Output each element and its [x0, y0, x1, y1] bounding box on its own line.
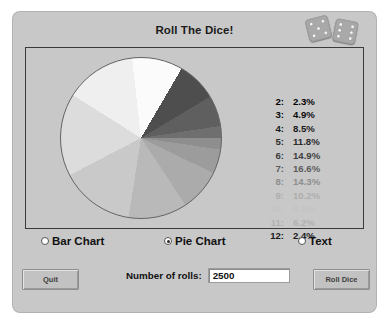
bottom-toolbar: Quit Number of rolls: Roll Dice — [13, 264, 376, 298]
quit-button[interactable]: Quit — [22, 269, 79, 290]
number-of-rolls-input[interactable] — [208, 268, 290, 283]
dice-illustration — [304, 13, 372, 45]
roll-dice-button[interactable]: Roll Dice — [313, 269, 370, 290]
legend-row-key: 6: — [264, 150, 284, 161]
pie-chart — [60, 57, 222, 219]
radio-text[interactable]: Text — [298, 235, 332, 247]
legend-row-key: 10: — [264, 203, 284, 214]
legend-row-key: 11: — [264, 217, 284, 228]
radio-text-dot[interactable] — [298, 237, 306, 245]
legend-row-value: 8.5% — [293, 123, 315, 134]
legend-row: 2:2.3% — [264, 96, 356, 109]
radio-bar-chart-dot[interactable] — [41, 237, 49, 245]
radio-pie-chart[interactable]: Pie Chart — [164, 235, 226, 247]
legend-row: 5:11.8% — [264, 136, 356, 149]
legend-row-value: 2.3% — [293, 96, 315, 107]
legend-row-value: 6.2% — [293, 217, 315, 228]
legend-row-value: 4.9% — [293, 109, 315, 120]
legend-row: 6:14.9% — [264, 150, 356, 163]
legend-row-value: 14.9% — [293, 150, 320, 161]
die-icon-left — [305, 15, 333, 43]
radio-text-label: Text — [309, 235, 332, 247]
legend-row-value: 8.0% — [293, 203, 315, 214]
legend-row: 9:10.2% — [264, 190, 356, 203]
radio-bar-chart-label: Bar Chart — [52, 235, 104, 247]
pie-chart-circle — [60, 57, 222, 219]
legend-row: 3:4.9% — [264, 109, 356, 122]
radio-bar-chart[interactable]: Bar Chart — [41, 235, 104, 247]
number-of-rolls-label: Number of rolls: — [126, 270, 202, 281]
legend-row-key: 2: — [264, 96, 284, 107]
view-mode-radio-group: Bar Chart Pie Chart Text — [13, 234, 376, 256]
application-window: Roll The Dice! 2:2.3%3:4.9%4:8.5%5:11.8%… — [13, 12, 376, 312]
number-of-rolls-group: Number of rolls: — [126, 268, 290, 283]
legend-row-key: 4: — [264, 123, 284, 134]
legend-row: 4:8.5% — [264, 123, 356, 136]
legend-row-value: 14.3% — [293, 176, 320, 187]
page-title: Roll The Dice! — [155, 24, 233, 36]
legend-row-key: 3: — [264, 109, 284, 120]
radio-pie-chart-dot[interactable] — [164, 237, 172, 245]
legend-row: 10:8.0% — [264, 203, 356, 216]
legend-row-value: 11.8% — [293, 136, 320, 147]
die-icon-right — [332, 18, 359, 45]
radio-pie-chart-label: Pie Chart — [175, 235, 226, 247]
legend-row: 11:6.2% — [264, 217, 356, 230]
pie-chart-legend: 2:2.3%3:4.9%4:8.5%5:11.8%6:14.9%7:16.6%8… — [264, 96, 356, 243]
legend-row-key: 5: — [264, 136, 284, 147]
chart-panel: 2:2.3%3:4.9%4:8.5%5:11.8%6:14.9%7:16.6%8… — [25, 47, 364, 229]
legend-row: 7:16.6% — [264, 163, 356, 176]
legend-row-key: 8: — [264, 176, 284, 187]
legend-row-value: 10.2% — [293, 190, 320, 201]
legend-row-key: 9: — [264, 190, 284, 201]
legend-row: 8:14.3% — [264, 176, 356, 189]
legend-row-value: 16.6% — [293, 163, 320, 174]
legend-row-key: 7: — [264, 163, 284, 174]
